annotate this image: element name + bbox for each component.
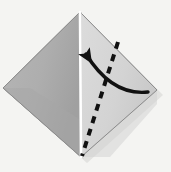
center-crease-line — [80, 12, 81, 157]
origami-diagram-svg — [0, 0, 171, 172]
origami-figure: Origami valley-fold diagram A kite/diamo… — [0, 0, 171, 172]
